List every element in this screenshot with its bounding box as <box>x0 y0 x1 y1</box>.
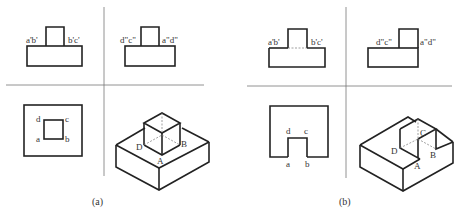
panel-b: a'b' b'c' d"c" a"d" d c a b <box>247 7 453 208</box>
front-view: a'b' b'c' <box>26 27 82 66</box>
caption-b: (b) <box>339 196 351 208</box>
front-view-left-label: a'b' <box>26 35 38 45</box>
iso-label-B: B <box>181 139 187 149</box>
side-view-right-label: a"d" <box>162 35 178 45</box>
iso-label-A: A <box>157 156 164 166</box>
side-view: d"c" a"d" <box>368 29 436 67</box>
top-view: d c a b <box>270 106 328 169</box>
panel-a: a'b' b'c' d"c" a"d" d c a b <box>6 7 209 208</box>
top-view-label-d: d <box>36 114 41 124</box>
isometric-view: C D A B <box>360 117 453 191</box>
side-view: d"c" a"d" <box>120 27 178 66</box>
top-view-label-b: b <box>65 134 70 144</box>
top-view-label-d: d <box>286 126 291 136</box>
top-view-label-a: a <box>286 159 290 169</box>
top-view-label-c: c <box>65 114 69 124</box>
iso-label-A: A <box>414 161 421 171</box>
side-view-left-label: d"c" <box>376 37 392 47</box>
front-view-right-label: b'c' <box>311 37 323 47</box>
side-view-right-label: a"d" <box>420 37 436 47</box>
iso-label-B: B <box>430 150 436 160</box>
iso-label-D: D <box>391 146 398 156</box>
top-view-label-a: a <box>36 134 40 144</box>
side-view-left-label: d"c" <box>120 35 136 45</box>
top-view: d c a b <box>24 105 82 156</box>
isometric-view: D A B <box>116 113 209 190</box>
front-view: a'b' b'c' <box>268 29 325 67</box>
orthographic-projection-figure: a'b' b'c' d"c" a"d" d c a b <box>0 0 458 211</box>
iso-label-C: C <box>420 128 426 138</box>
top-view-label-b: b <box>305 159 310 169</box>
caption-a: (a) <box>92 196 103 208</box>
front-view-left-label: a'b' <box>268 37 280 47</box>
iso-label-D: D <box>136 142 143 152</box>
front-view-right-label: b'c' <box>68 35 80 45</box>
top-view-label-c: c <box>304 126 308 136</box>
